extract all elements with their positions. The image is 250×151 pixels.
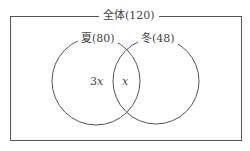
- variable: x: [122, 75, 128, 88]
- summer-set-label: 夏(80): [78, 33, 118, 45]
- winter-set-label: 冬(48): [138, 33, 178, 45]
- summer-only-region-label: 3x: [90, 76, 103, 88]
- variable: x: [97, 75, 103, 88]
- universe-label: 全体(120): [99, 10, 159, 22]
- intersection-region-label: x: [122, 76, 128, 88]
- coefficient: 3: [90, 75, 97, 88]
